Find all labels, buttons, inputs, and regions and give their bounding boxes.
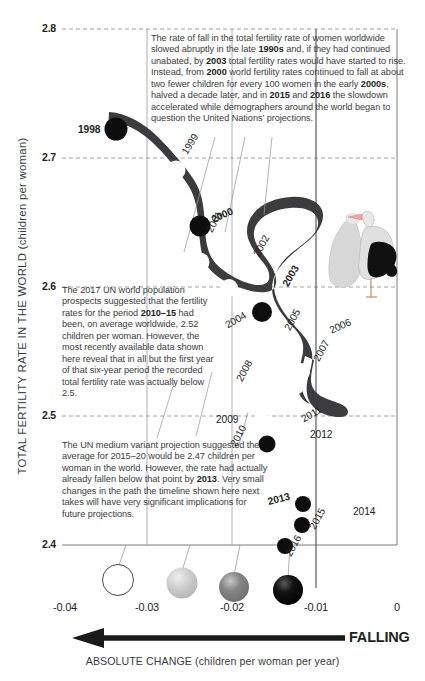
- annotation-2017-un-prospects: The 2017 UN world population prospects s…: [62, 285, 214, 400]
- marker-2008: [264, 392, 281, 409]
- ytick-2.5: 2.5: [30, 409, 56, 421]
- marker-2002: [220, 279, 238, 297]
- legend-spheres: [103, 565, 304, 606]
- legend-stems: [118, 545, 290, 578]
- annotation-1990s-slowdown: The rate of fall in the total fertility …: [151, 33, 410, 125]
- legend-sphere-older: [167, 568, 198, 599]
- note2-bold1: 2010–15: [141, 308, 176, 318]
- marker-2007: [288, 378, 305, 395]
- xtick-0: 0: [372, 601, 422, 613]
- note1-bold4: 2000s: [361, 79, 386, 89]
- x-axis-title: ABSOLUTE CHANGE (children per woman per …: [0, 655, 425, 667]
- falling-arrow-icon: [72, 628, 345, 648]
- legend-sphere-newer: [219, 572, 249, 602]
- note1-bold5: 2015: [270, 90, 290, 100]
- ytick-2.8: 2.8: [30, 22, 56, 34]
- legend-sphere-oldest: [103, 565, 134, 596]
- marker-1999: [167, 161, 186, 180]
- note1-bold3: 2000: [206, 67, 226, 77]
- marker-2013: [295, 496, 311, 512]
- y-axis-title: TOTAL FERTILITY RATE IN THE WORLD (child…: [16, 71, 28, 541]
- year-label-2014: 2014: [353, 506, 375, 517]
- ytick-2.6: 2.6: [30, 280, 56, 292]
- marker-2014: [330, 503, 349, 522]
- note2-seg2: had been, on average worldwide, 2.52 chi…: [62, 308, 214, 398]
- xtick--0.01: -0.01: [291, 601, 341, 613]
- marker-1998: [105, 118, 128, 141]
- note1-bold6: 2016: [310, 90, 330, 100]
- year-label-2009: 2009: [216, 414, 238, 425]
- marker-2001: [191, 253, 210, 272]
- note3-bold1: 2013: [197, 474, 217, 484]
- marker-2012: [289, 469, 305, 485]
- marker-2003: [252, 302, 272, 322]
- note1-bold2: 2003: [206, 56, 226, 66]
- marker-2005: [260, 350, 278, 368]
- chart-canvas: 2.8 2.7 2.6 2.5 2.4 TOTAL FERTILITY RATE…: [0, 0, 425, 681]
- stork-bundle: [329, 219, 362, 287]
- stem-sphere-3: [234, 545, 240, 575]
- ytick-2.4: 2.4: [30, 538, 56, 550]
- marker-2004: [241, 328, 260, 347]
- xtick--0.04: -0.04: [40, 601, 90, 613]
- annotation-medium-variant: The UN medium variant projection suggest…: [62, 440, 272, 520]
- ytick-2.7: 2.7: [30, 151, 56, 163]
- falling-label: FALLING: [349, 629, 410, 645]
- marker-2009: [253, 413, 271, 431]
- xtick--0.03: -0.03: [122, 601, 172, 613]
- note1-bold1: 1990s: [258, 44, 283, 54]
- marker-2011: [289, 452, 305, 468]
- xtick--0.02: -0.02: [207, 601, 257, 613]
- stork-icon: [329, 211, 397, 297]
- year-label-1998: 1998: [78, 124, 100, 135]
- note1-seg6: and: [290, 90, 310, 100]
- stem-sphere-2: [182, 545, 190, 571]
- stork-legs: [366, 279, 377, 297]
- year-label-2012: 2012: [310, 429, 332, 440]
- stork-head: [362, 211, 374, 227]
